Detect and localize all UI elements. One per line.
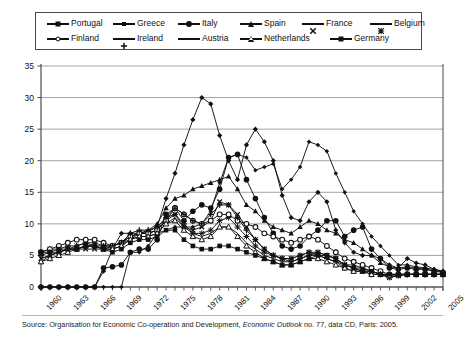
source-divider <box>22 315 443 316</box>
legend-label: Ireland <box>137 34 163 43</box>
legend-row: FinlandIrelandAustriaNetherlandsGermany <box>41 32 416 45</box>
legend-label: France <box>326 19 352 28</box>
x-axis-labels: 1960196319661969197219751978198119841987… <box>0 58 461 98</box>
legend-item-netherlands[interactable]: Netherlands <box>240 33 310 44</box>
legend-item-germany[interactable]: Germany <box>330 33 389 44</box>
legend-item-finland[interactable]: Finland <box>47 33 99 44</box>
plus-icon <box>113 33 135 44</box>
legend-label: Finland <box>71 34 99 43</box>
filled-square-icon <box>330 33 352 44</box>
legend-item-ireland[interactable]: Ireland <box>113 33 163 44</box>
source-note: Source: Organisation for Economic Co-ope… <box>22 320 452 330</box>
line-only-icon <box>178 33 200 44</box>
series-germany <box>39 228 446 277</box>
source-suffix: no. 77, data CD, Paris: 2005. <box>302 320 398 329</box>
legend-label: Portugal <box>71 19 103 28</box>
legend-item-france[interactable]: France <box>302 18 352 29</box>
legend-row: PortugalGreeceItalySpainFranceBelgium <box>41 17 416 30</box>
gridlines <box>41 66 443 287</box>
source-publication-title: Economic Outlook <box>243 320 302 329</box>
filled-circle-icon <box>178 18 200 29</box>
open-triangle-icon <box>240 33 262 44</box>
legend-item-austria[interactable]: Austria <box>178 33 228 44</box>
legend-label: Spain <box>264 19 286 28</box>
legend-label: Netherlands <box>264 34 310 43</box>
series-ireland <box>38 202 446 277</box>
chart-plot-area: 05101520253035 1960196319661969197219751… <box>0 58 461 308</box>
series-france <box>39 199 446 279</box>
legend-item-spain[interactable]: Spain <box>240 18 286 29</box>
legend-item-belgium[interactable]: Belgium <box>370 18 425 29</box>
asterisk-icon <box>370 18 392 29</box>
filled-diamond-small-icon <box>113 18 135 29</box>
filled-diamond-icon <box>47 18 69 29</box>
chart-legend: PortugalGreeceItalySpainFranceBelgiumFin… <box>35 12 422 50</box>
legend-label: Italy <box>202 19 218 28</box>
legend-item-portugal[interactable]: Portugal <box>47 18 103 29</box>
legend-label: Austria <box>202 34 228 43</box>
legend-item-italy[interactable]: Italy <box>178 18 218 29</box>
open-circle-icon <box>47 33 69 44</box>
legend-item-greece[interactable]: Greece <box>113 18 165 29</box>
legend-label: Greece <box>137 19 165 28</box>
cross-x-icon <box>302 18 324 29</box>
source-prefix: Source: Organisation for Economic Co-ope… <box>22 320 243 329</box>
filled-triangle-icon <box>240 18 262 29</box>
legend-label: Germany <box>354 34 389 43</box>
legend-label: Belgium <box>394 19 425 28</box>
